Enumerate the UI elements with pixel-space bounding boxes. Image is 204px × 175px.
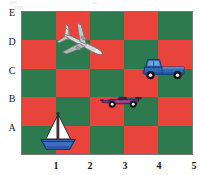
- worksheet-canvas: E D C B A: [0, 0, 204, 175]
- x-axis-labels: 1 2 3 4 5: [0, 161, 204, 175]
- y-axis-label-d: D: [4, 37, 20, 47]
- grid-objects: [22, 12, 192, 154]
- y-axis-label-a: A: [4, 123, 20, 133]
- airplane-icon: [55, 22, 107, 66]
- truck-icon: [139, 56, 187, 82]
- y-axis-label-c: C: [4, 66, 20, 76]
- scan-artifact: [92, 2, 97, 4]
- x-axis-label-1: 1: [48, 161, 64, 171]
- sailboat-icon: [36, 110, 80, 154]
- y-axis-labels: E D C B A: [2, 0, 20, 175]
- race-car-icon: [99, 93, 144, 111]
- x-axis-label-3: 3: [117, 161, 133, 171]
- x-axis-label-4: 4: [151, 161, 167, 171]
- y-axis-label-b: B: [4, 94, 20, 104]
- coordinate-grid: [21, 11, 193, 155]
- x-axis-label-2: 2: [82, 161, 98, 171]
- y-axis-label-e: E: [4, 8, 20, 18]
- x-axis-label-5: 5: [186, 161, 202, 171]
